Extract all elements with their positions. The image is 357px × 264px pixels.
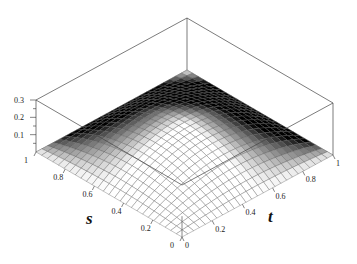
s-tick-label: 1 <box>24 156 28 165</box>
s-tick-label: 0.8 <box>53 173 63 182</box>
s-tick-label: 0.2 <box>141 224 151 233</box>
z-tick-label: 0.1 <box>14 131 24 140</box>
s-tick-label: 0.6 <box>82 190 92 199</box>
t-tick-label: 1 <box>336 159 340 168</box>
z-tick-label: 0.2 <box>14 113 24 122</box>
s-tick-label: 0.4 <box>112 207 122 216</box>
s-axis-label: s <box>85 209 93 228</box>
plot-canvas: 0.10.20.3 00.20.40.60.81 00.20.40.60.81 … <box>0 0 357 264</box>
s-tick-label: 0 <box>170 241 174 250</box>
surface-plot: 0.10.20.3 00.20.40.60.81 00.20.40.60.81 … <box>0 0 357 264</box>
t-tick-label: 0.2 <box>215 225 225 234</box>
z-tick-label: 0.3 <box>14 96 24 105</box>
t-tick-label: 0 <box>185 241 189 250</box>
t-axis-label: t <box>268 207 274 226</box>
t-tick-label: 0.4 <box>245 208 255 217</box>
t-tick-label: 0.6 <box>276 192 286 201</box>
surface-mesh <box>36 70 333 237</box>
z-axis: 0.10.20.3 <box>14 96 36 143</box>
t-tick-label: 0.8 <box>306 175 316 184</box>
